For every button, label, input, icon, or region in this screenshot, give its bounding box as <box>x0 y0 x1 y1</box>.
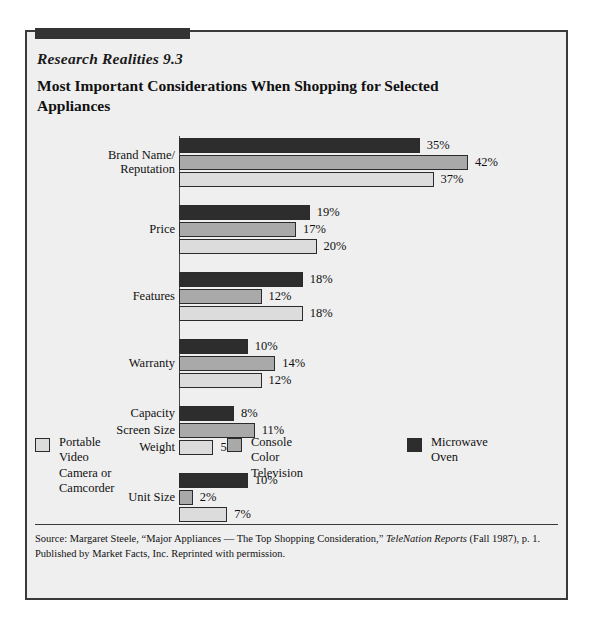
bar-row: 20% <box>27 239 570 254</box>
bar-chart: 35%42%37%Brand Name/Reputation19%17%20%P… <box>27 136 570 436</box>
bar <box>179 289 262 304</box>
bar <box>179 205 310 220</box>
bar-value-label: 37% <box>441 171 464 186</box>
bar-value-label: 10% <box>255 338 278 353</box>
bar-row: 19% <box>27 205 570 220</box>
bar <box>179 373 262 388</box>
bar <box>179 306 303 321</box>
category-label: Warranty <box>0 356 175 371</box>
category-label: Price <box>0 222 175 237</box>
bar <box>179 172 434 187</box>
bar-group: 18%12%18%Features <box>27 272 570 321</box>
bar-value-label: 17% <box>303 221 326 236</box>
category-label: Features <box>0 289 175 304</box>
bar-row: 12% <box>27 373 570 388</box>
bar-group: 10%14%12%Warranty <box>27 339 570 388</box>
bar-group: 35%42%37%Brand Name/Reputation <box>27 138 570 187</box>
bar-value-label: 42% <box>475 154 498 169</box>
bar-row: 8%Capacity <box>27 406 570 421</box>
legend-swatch-icon <box>407 438 422 452</box>
bar-value-label: 12% <box>269 372 292 387</box>
legend-swatch-icon <box>227 438 242 452</box>
bar <box>179 222 296 237</box>
category-label: Capacity <box>0 406 175 421</box>
bar-value-label: 8% <box>241 405 258 420</box>
bar-group: 19%17%20%Price <box>27 205 570 254</box>
category-label: Brand Name/Reputation <box>0 148 175 178</box>
bar-row: 18% <box>27 306 570 321</box>
bar-row: 10% <box>27 339 570 354</box>
bar-value-label: 12% <box>269 288 292 303</box>
legend-swatch-icon <box>35 438 50 452</box>
page-title: Most Important Considerations When Shopp… <box>37 76 457 117</box>
header-accent-bar <box>35 28 190 39</box>
bar <box>179 507 227 522</box>
legend-label: Microwave Oven <box>431 435 488 466</box>
bar-value-label: 19% <box>317 204 340 219</box>
exhibit-series-label: Research Realities 9.3 <box>37 50 183 68</box>
bar <box>179 239 317 254</box>
bar <box>179 406 234 421</box>
exhibit-panel: Research Realities 9.3 Most Important Co… <box>25 30 568 600</box>
source-divider <box>35 524 558 525</box>
bar-value-label: 18% <box>310 305 333 320</box>
bar <box>179 339 248 354</box>
bar-value-label: 7% <box>234 506 251 521</box>
bar <box>179 138 420 153</box>
bar-value-label: 35% <box>427 137 450 152</box>
source-note-publication: TeleNation Reports <box>386 533 467 544</box>
chart-legend: Portable Video Camera or CamcorderConsol… <box>27 436 570 506</box>
legend-label: Portable Video Camera or Camcorder <box>59 435 115 496</box>
legend-label: Console Color Television <box>251 435 303 481</box>
bar-row: 7% <box>27 507 570 522</box>
source-note-prefix: Source: Margaret Steele, “Major Applianc… <box>35 533 386 544</box>
source-note: Source: Margaret Steele, “Major Applianc… <box>35 532 558 562</box>
bar-row: 18% <box>27 272 570 287</box>
bar-value-label: 20% <box>324 238 347 253</box>
bar-value-label: 14% <box>282 355 305 370</box>
bar <box>179 356 275 371</box>
bar <box>179 155 468 170</box>
bar <box>179 272 303 287</box>
bar-value-label: 18% <box>310 271 333 286</box>
